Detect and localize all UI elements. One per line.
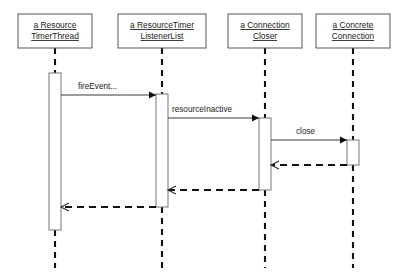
message-label-msg-close: close (296, 127, 316, 136)
lifeline-name-line1-resource-timer-thread: a Resource (34, 20, 77, 30)
activation-bar-resource-timer-thread (49, 73, 61, 230)
message-label-layer: fireEvent...resourceInactiveclose (78, 82, 316, 136)
activation-bar-connection-closer (259, 118, 271, 190)
lifeline-name-line2-concrete-connection: Connection (332, 31, 375, 41)
arrowhead-filled-msg-resource-inactive (252, 115, 259, 122)
lifeline-header-layer: a ResourceTimerThreada ResourceTimerList… (18, 14, 390, 48)
arrowhead-filled-msg-fire-event (149, 92, 156, 99)
lifeline-name-line2-connection-closer: Closer (253, 31, 277, 41)
activation-bar-resource-timer-listener-list (156, 94, 168, 207)
diagram-svg: a ResourceTimerThreada ResourceTimerList… (0, 0, 411, 275)
lifeline-name-line1-resource-timer-listener-list: a ResourceTimer (130, 20, 194, 30)
sequence-diagram-canvas: a ResourceTimerThreada ResourceTimerList… (0, 0, 411, 275)
lifeline-dash-layer (55, 48, 353, 268)
message-label-msg-fire-event: fireEvent... (78, 82, 117, 91)
lifeline-name-line1-concrete-connection: a Concrete (333, 20, 374, 30)
arrowhead-filled-msg-close (340, 137, 347, 144)
message-label-msg-resource-inactive: resourceInactive (172, 105, 233, 114)
activation-bar-concrete-connection (347, 140, 359, 165)
lifeline-name-line2-resource-timer-listener-list: ListenerList (141, 31, 185, 41)
lifeline-name-line1-connection-closer: a Connection (240, 20, 290, 30)
lifeline-name-line2-resource-timer-thread: TimerThread (31, 31, 79, 41)
